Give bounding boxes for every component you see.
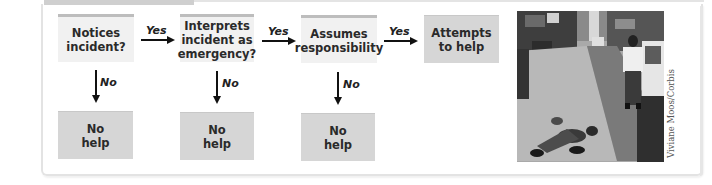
- yes-arrow-1: [141, 39, 170, 41]
- no-arrow-3: [337, 72, 339, 100]
- no-label-1: No: [100, 76, 117, 89]
- yes-arrow-2: [262, 40, 291, 42]
- step-interprets-emergency: Interprets incident as emergency?: [180, 14, 254, 62]
- photo-credit: Viviane Moos/Corbis: [666, 69, 676, 158]
- step-notices-incident: Notices incident?: [58, 14, 134, 62]
- outcome-no-help-2: No help: [180, 112, 254, 160]
- street-scene-image: [517, 11, 664, 162]
- bystander-photo: [517, 11, 664, 162]
- frame-right-edge: [700, 6, 703, 176]
- outcome-no-help-1: No help: [58, 111, 133, 159]
- yes-label-2: Yes: [268, 25, 289, 38]
- no-arrow-1: [95, 70, 97, 98]
- no-label-3: No: [343, 78, 360, 91]
- no-label-2: No: [222, 77, 239, 90]
- step-attempts-to-help: Attempts to help: [424, 15, 499, 63]
- yes-label-3: Yes: [389, 25, 410, 38]
- yes-arrow-3: [384, 40, 413, 42]
- outcome-no-help-3: No help: [301, 113, 375, 161]
- yes-label-1: Yes: [146, 24, 167, 37]
- no-arrow-2: [216, 71, 218, 99]
- step-assumes-responsibility: Assumes responsibility: [301, 15, 377, 63]
